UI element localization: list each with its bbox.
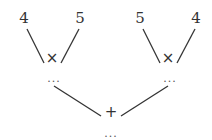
edge-right-leaf-to-left-mult — [61, 29, 79, 63]
edge-right-leaf-to-right-mult — [177, 29, 195, 63]
expression-tree-diagram: 4 5 × ... 5 4 × ... + ... — [0, 0, 212, 140]
root-add-operator: + — [105, 103, 118, 121]
right-mult-operator: × — [162, 49, 175, 67]
root-result: ... — [104, 127, 118, 140]
edge-left-leaf-to-left-mult — [27, 29, 44, 63]
right-mult-result: ... — [163, 72, 177, 85]
left-mult-result: ... — [47, 72, 61, 85]
right-mult-right-leaf: 4 — [191, 9, 201, 27]
left-mult-operator: × — [46, 49, 59, 67]
left-mult-right-leaf: 5 — [75, 9, 85, 27]
left-mult-left-leaf: 4 — [19, 9, 29, 27]
edge-right-result-to-root — [121, 86, 168, 116]
edge-left-result-to-root — [54, 86, 101, 116]
edge-left-leaf-to-right-mult — [143, 29, 160, 63]
right-mult-left-leaf: 5 — [135, 9, 145, 27]
